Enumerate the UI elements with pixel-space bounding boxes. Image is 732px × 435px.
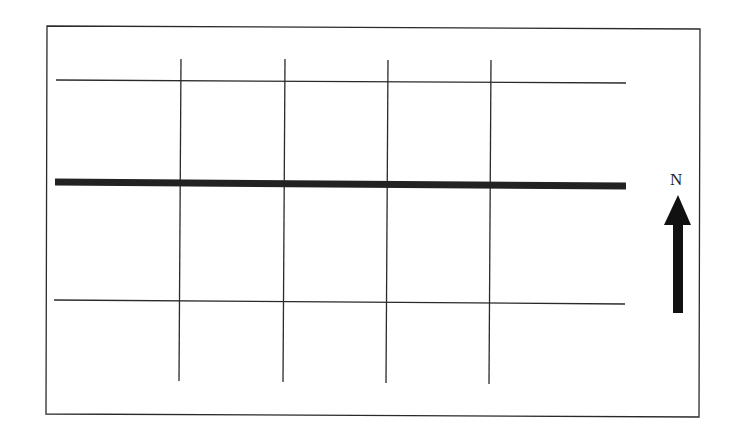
- north-arrow-icon: [664, 195, 691, 313]
- north-label: N: [670, 170, 682, 190]
- vertical-street: [489, 60, 491, 384]
- major-road: [55, 182, 626, 186]
- street-map-diagram: [0, 0, 732, 435]
- north-arrow-shaft: [673, 224, 683, 313]
- vertical-streets: [179, 59, 491, 384]
- map-frame: [46, 26, 700, 417]
- vertical-street: [386, 60, 388, 383]
- horizontal-street: [54, 300, 625, 304]
- horizontal-streets: [54, 80, 626, 304]
- vertical-street: [283, 59, 285, 382]
- vertical-street: [179, 59, 181, 381]
- north-arrow-head: [664, 195, 691, 225]
- horizontal-street: [56, 80, 626, 83]
